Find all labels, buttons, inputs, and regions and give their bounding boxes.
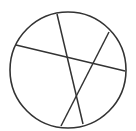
chord-3 (61, 32, 109, 126)
chord-2 (16, 45, 125, 71)
circle-chords-diagram (0, 0, 136, 131)
diagram-canvas (0, 0, 136, 131)
circle (10, 12, 126, 128)
